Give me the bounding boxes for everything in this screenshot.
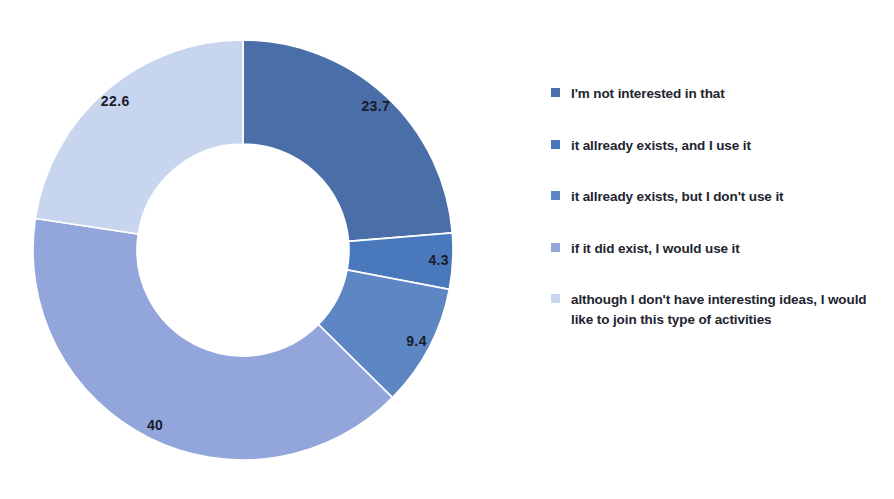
legend-item-label: I'm not interested in that (571, 84, 725, 104)
legend-swatch-icon (551, 243, 560, 252)
legend-item[interactable]: if it did exist, I would use it (551, 239, 887, 259)
legend-item-label: it allready exists, but I don't use it (571, 187, 783, 207)
slice-data-label: 4.3 (428, 252, 449, 268)
legend-item-label: although I don't have interesting ideas,… (571, 290, 887, 329)
chart-legend: I'm not interested in thatit allready ex… (551, 84, 887, 329)
slice-data-label: 23.7 (361, 98, 390, 114)
legend-swatch-icon (551, 88, 560, 97)
donut-chart: 23.74.39.44022.6 (0, 0, 520, 499)
slice-data-label: 9.4 (406, 333, 427, 349)
legend-swatch-icon (551, 191, 560, 200)
legend-item-label: it allready exists, and I use it (571, 136, 751, 156)
slice-data-label: 40 (147, 417, 163, 433)
legend-item[interactable]: it allready exists, and I use it (551, 136, 887, 156)
legend-item[interactable]: I'm not interested in that (551, 84, 887, 104)
legend-swatch-icon (551, 140, 560, 149)
donut-chart-svg (25, 26, 461, 474)
legend-item[interactable]: although I don't have interesting ideas,… (551, 290, 887, 329)
donut-slice[interactable] (35, 40, 243, 234)
legend-item[interactable]: it allready exists, but I don't use it (551, 187, 887, 207)
legend-item-label: if it did exist, I would use it (571, 239, 740, 259)
slice-data-label: 22.6 (101, 93, 130, 109)
donut-slice[interactable] (243, 40, 452, 241)
legend-swatch-icon (551, 294, 560, 303)
